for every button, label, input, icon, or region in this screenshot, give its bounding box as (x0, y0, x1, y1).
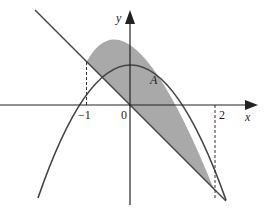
y-axis-label: y (115, 11, 122, 25)
area-between-curves-figure: y x A −1 0 2 (0, 0, 270, 210)
y-axis-arrow-icon (125, 10, 135, 24)
x-axis-label: x (244, 110, 251, 124)
tick-label-zero: 0 (121, 108, 127, 122)
tick-label-neg-one: −1 (78, 108, 91, 122)
x-axis-arrow-icon (245, 100, 258, 110)
shaded-region-a (86, 40, 213, 189)
region-label-a: A (149, 73, 158, 87)
tick-label-two: 2 (219, 108, 225, 122)
